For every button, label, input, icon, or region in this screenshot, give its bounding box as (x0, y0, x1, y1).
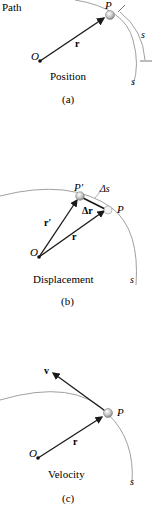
velocity-vector-v (53, 373, 108, 413)
vector-r-label: r (73, 436, 78, 447)
path-label: Path (2, 1, 22, 13)
vector-r-prime (39, 200, 77, 257)
vector-r-prime-label: r′ (44, 217, 51, 228)
point-p-prime-label: P′ (73, 181, 84, 193)
origin-o-label: O (30, 246, 38, 258)
position-vector-r (38, 417, 102, 458)
arc-s-label: s (130, 274, 134, 285)
delta-r-label: Δr (82, 205, 93, 216)
arc-s-label-lower: s (131, 76, 135, 87)
point-p-label: P (116, 406, 124, 418)
panel-b-caption: (b) (61, 295, 74, 308)
panel-b-title: Displacement (33, 273, 93, 285)
panel-a-title: Position (50, 70, 87, 82)
origin-o-label: O (31, 50, 39, 62)
vector-r-label: r (75, 38, 80, 49)
panel-c-title: Velocity (48, 468, 85, 480)
panel-c-caption: (c) (62, 492, 75, 505)
velocity-v-label: v (44, 365, 49, 376)
arc-s-label: s (130, 476, 134, 487)
arc-s-label-upper: s (141, 29, 145, 40)
point-p-label: P (116, 203, 124, 215)
vector-r-label: r (72, 231, 77, 242)
panel-a-caption: (a) (62, 93, 75, 106)
particle-p (104, 206, 112, 214)
delta-s-label: Δs (99, 183, 110, 194)
panel-c-velocity (0, 373, 132, 483)
particle-p (104, 409, 113, 418)
particle-p (106, 11, 115, 20)
origin-o-label: O (29, 447, 37, 459)
point-p-label: P (104, 0, 112, 11)
position-vector-r (40, 18, 104, 61)
